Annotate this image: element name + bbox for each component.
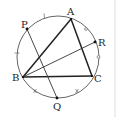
arc-mark-QC-cross bbox=[76, 89, 79, 93]
label-R: R bbox=[98, 37, 106, 48]
point-C bbox=[91, 75, 93, 77]
point-B bbox=[22, 76, 24, 78]
segment-PQ bbox=[27, 29, 57, 98]
segment-BR bbox=[23, 42, 95, 77]
segment-AC bbox=[71, 19, 92, 76]
point-A bbox=[70, 18, 72, 20]
label-Q: Q bbox=[53, 101, 61, 112]
arc-mark-RC-circle bbox=[97, 56, 100, 59]
segment-BC bbox=[23, 76, 92, 77]
label-B: B bbox=[12, 72, 19, 83]
arc-mark-PA-tick bbox=[44, 14, 45, 19]
arc-mark-AR-circle bbox=[85, 28, 88, 31]
label-C: C bbox=[94, 73, 102, 84]
label-A: A bbox=[66, 6, 75, 17]
circle-geometry-figure: A B C P Q R bbox=[0, 0, 119, 117]
label-P: P bbox=[21, 19, 28, 30]
point-R bbox=[94, 41, 97, 44]
point-Q bbox=[56, 97, 59, 100]
segment-AB bbox=[23, 19, 71, 77]
arc-mark-BQ-cross bbox=[34, 89, 37, 93]
